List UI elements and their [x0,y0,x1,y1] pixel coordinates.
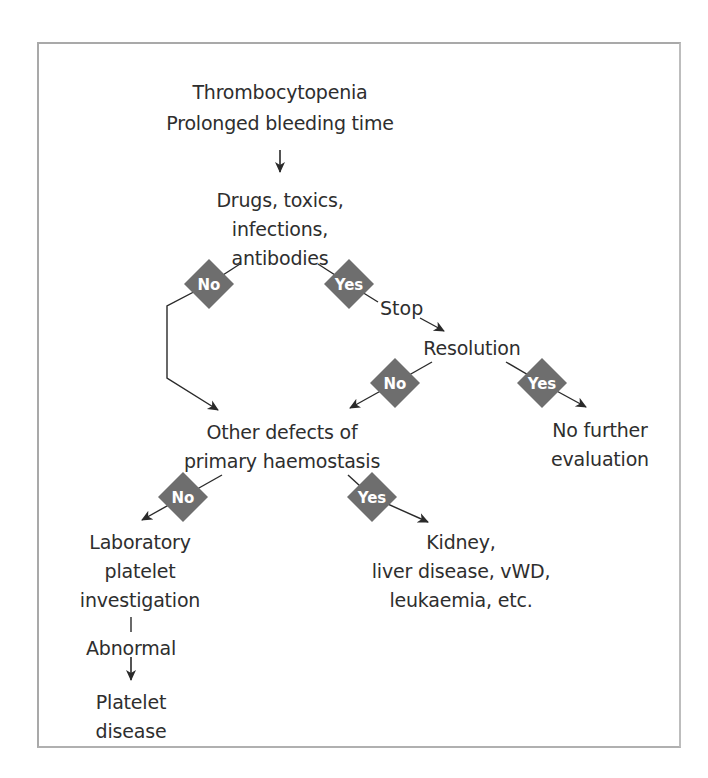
node-start: Thrombocytopenia Prolonged bleeding time [166,78,393,138]
decision-other-yes: Yes [347,472,397,522]
drugs-line-3: antibodies [216,244,343,273]
svg-text:No: No [172,489,195,507]
decision-resolution-no: No [370,358,420,408]
resolution-label: Resolution [423,334,520,363]
laboratory-line-1: Laboratory [80,528,200,557]
node-laboratory-investigation: Laboratory platelet investigation [80,528,200,615]
abnormal-label: Abnormal [86,634,176,663]
node-abnormal: Abnormal [86,634,176,663]
platelet-disease-line-2: disease [96,717,167,746]
start-line-2: Prolonged bleeding time [166,109,393,138]
svg-text:Yes: Yes [357,489,387,507]
no-further-line-1: No further [551,416,649,445]
node-no-further-evaluation: No further evaluation [551,416,649,474]
svg-text:Yes: Yes [334,276,364,294]
decision-other-no: No [158,472,208,522]
node-other-defects: Other defects of primary haemostasis [184,418,380,476]
arrow-stop-to-resolution [420,318,444,331]
drugs-line-1: Drugs, toxics, [216,186,343,215]
kidney-line-1: Kidney, [372,528,550,557]
start-line-1: Thrombocytopenia [166,78,393,107]
svg-text:No: No [198,276,221,294]
platelet-disease-line-1: Platelet [96,688,167,717]
decision-resolution-yes: Yes [517,358,567,408]
other-defects-line-2: primary haemostasis [184,447,380,476]
kidney-line-3: leukaemia, etc. [372,586,550,615]
no-further-line-2: evaluation [551,445,649,474]
kidney-line-2: liver disease, vWD, [372,557,550,586]
drugs-line-2: infections, [216,215,343,244]
laboratory-line-2: platelet [80,557,200,586]
node-stop: Stop [380,296,423,320]
laboratory-line-3: investigation [80,586,200,615]
svg-text:No: No [384,375,407,393]
other-defects-line-1: Other defects of [184,418,380,447]
node-platelet-disease: Platelet disease [96,688,167,746]
node-drugs-toxics-infections: Drugs, toxics, infections, antibodies [216,186,343,273]
svg-text:Yes: Yes [527,375,557,393]
node-kidney-liver-disease: Kidney, liver disease, vWD, leukaemia, e… [372,528,550,615]
node-resolution: Resolution [423,334,520,363]
